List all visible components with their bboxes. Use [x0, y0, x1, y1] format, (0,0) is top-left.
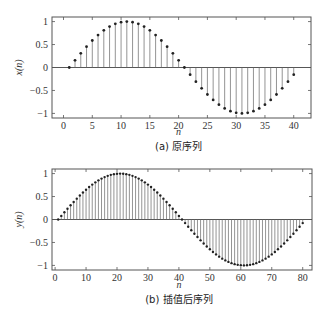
x-tick-label: 60 [236, 272, 246, 283]
x-tick-label: 30 [143, 272, 153, 283]
y-tick-label: −1 [37, 108, 48, 119]
plot-panel-a: 0510152025303540−1−0.500.51nx(n)(a) 原序列 [13, 16, 311, 152]
x-tick-label: 35 [260, 120, 270, 131]
y-tick-label: 0.5 [36, 39, 49, 50]
figure: 0510152025303540−1−0.500.51nx(n)(a) 原序列 … [0, 0, 330, 320]
x-tick-label: 10 [81, 272, 91, 283]
x-axis-label: n [176, 279, 181, 290]
x-tick-label: 25 [202, 120, 212, 131]
plot-panel-b: 01020304050607080−1−0.500.51ny(n)(b) 插值后… [13, 168, 312, 305]
x-tick-label: 70 [267, 272, 277, 283]
y-tick-label: −0.5 [30, 237, 48, 248]
y-tick-label: 1 [43, 168, 48, 179]
y-axis-label: x(n) [13, 59, 25, 77]
x-tick-label: 0 [61, 120, 66, 131]
y-tick-label: 0 [43, 214, 48, 225]
x-tick-label: 20 [112, 272, 122, 283]
x-tick-label: 15 [145, 120, 155, 131]
x-tick-label: 80 [298, 272, 308, 283]
x-tick-label: 50 [205, 272, 215, 283]
x-tick-label: 40 [289, 120, 299, 131]
y-tick-label: 0.5 [36, 191, 49, 202]
y-axis-label: y(n) [13, 211, 25, 229]
x-tick-label: 5 [90, 120, 95, 131]
panel-caption: (a) 原序列 [155, 140, 202, 152]
y-tick-label: 0 [43, 62, 48, 73]
panel-caption: (b) 插值后序列 [145, 293, 212, 305]
y-tick-label: −0.5 [30, 85, 48, 96]
x-tick-label: 30 [231, 120, 241, 131]
y-tick-label: 1 [43, 16, 48, 27]
y-tick-label: −1 [37, 260, 48, 271]
x-axis-label: n [176, 126, 181, 137]
x-tick-label: 0 [53, 272, 58, 283]
x-tick-label: 10 [116, 120, 126, 131]
